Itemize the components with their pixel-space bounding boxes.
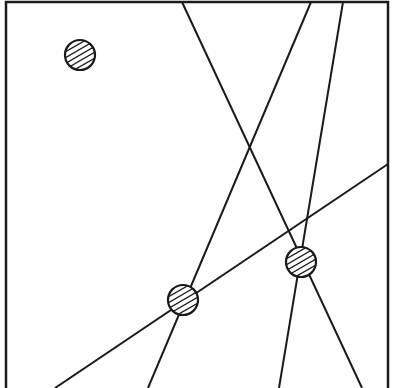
line-1 [182, 2, 362, 388]
line-circle-diagram [0, 0, 399, 388]
frame-outline [6, 2, 388, 388]
hatch-pattern [44, 23, 116, 88]
hatch-pattern [147, 268, 219, 333]
frame-border [6, 2, 388, 388]
lines [55, 2, 388, 388]
circle-isolated [44, 23, 116, 88]
line-4 [55, 164, 388, 388]
line-3 [279, 2, 343, 388]
line-2 [148, 2, 311, 388]
hatched-circles [44, 23, 337, 333]
circle-left-junction [147, 268, 219, 333]
